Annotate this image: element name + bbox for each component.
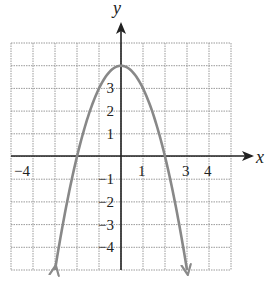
y-tick-label: −3 bbox=[98, 217, 114, 233]
x-tick-label: 4 bbox=[204, 163, 212, 179]
x-tick-label: 3 bbox=[182, 163, 190, 179]
y-tick-label: −4 bbox=[98, 239, 114, 255]
parabola-graph: x y −4 1 3 4 3 2 1 −1 −2 −3 −4 bbox=[0, 0, 266, 283]
y-axis-label: y bbox=[111, 0, 121, 18]
y-tick-label: −2 bbox=[98, 194, 114, 210]
y-tick-label: 2 bbox=[107, 103, 115, 119]
y-tick-labels: 3 2 1 −1 −2 −3 −4 bbox=[98, 80, 114, 255]
y-tick-label: 1 bbox=[107, 126, 115, 142]
y-tick-label: −1 bbox=[98, 171, 114, 187]
axes: x y bbox=[11, 0, 264, 270]
x-axis-label: x bbox=[255, 147, 264, 167]
x-tick-label: −4 bbox=[14, 163, 30, 179]
y-tick-label: 3 bbox=[107, 80, 115, 96]
x-tick-label: 1 bbox=[138, 163, 146, 179]
